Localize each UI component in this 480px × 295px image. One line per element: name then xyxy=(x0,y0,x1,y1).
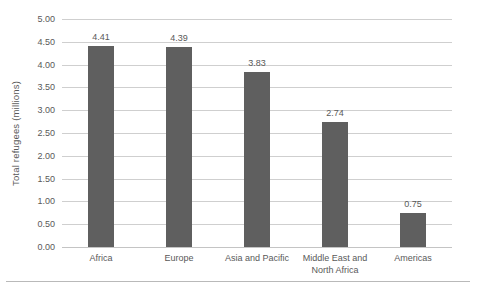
bar[interactable] xyxy=(244,72,270,247)
bar-column[interactable] xyxy=(296,19,374,247)
y-axis-tick-label: 0.50 xyxy=(37,219,55,229)
gridline xyxy=(62,247,452,248)
bar-value-label: 2.74 xyxy=(296,108,374,118)
bar-value-label: 3.83 xyxy=(218,58,296,68)
y-axis-tick-label: 1.00 xyxy=(37,196,55,206)
category-label-line: North Africa xyxy=(287,264,383,276)
bar-chart: Total refugees (millions) 5.004.504.003.… xyxy=(0,0,480,295)
bar-value-label: 4.39 xyxy=(140,33,218,43)
bar[interactable] xyxy=(88,46,114,247)
y-axis-tick-label: 4.00 xyxy=(37,60,55,70)
y-axis-tick-label: 1.50 xyxy=(37,174,55,184)
y-axis-tick-label: 0.00 xyxy=(37,242,55,252)
y-axis-tick-label: 3.00 xyxy=(37,105,55,115)
x-axis-category-label: Americas xyxy=(365,252,461,264)
y-axis-tick-label: 2.00 xyxy=(37,151,55,161)
y-axis-tick-label: 5.00 xyxy=(37,14,55,24)
bar-column[interactable] xyxy=(218,19,296,247)
bar-column[interactable] xyxy=(374,19,452,247)
bar-value-label: 4.41 xyxy=(62,32,140,42)
bar-column[interactable] xyxy=(62,19,140,247)
y-axis-tick-label: 3.50 xyxy=(37,82,55,92)
y-axis-tick-labels: 5.004.504.003.503.002.502.001.501.000.50… xyxy=(0,0,62,295)
bar-column[interactable] xyxy=(140,19,218,247)
bar[interactable] xyxy=(400,213,426,247)
bar[interactable] xyxy=(166,47,192,247)
y-axis-tick-label: 2.50 xyxy=(37,128,55,138)
bar-value-label: 0.75 xyxy=(374,199,452,209)
plot-area: 4.414.393.832.740.75 xyxy=(62,19,452,247)
bottom-divider xyxy=(6,281,470,282)
category-label-line: Americas xyxy=(365,252,461,264)
y-axis-tick-label: 4.50 xyxy=(37,37,55,47)
bar[interactable] xyxy=(322,122,348,247)
